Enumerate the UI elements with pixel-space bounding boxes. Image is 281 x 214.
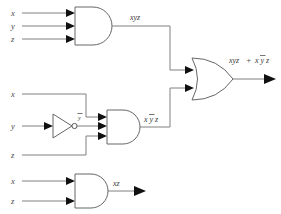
label-or-term2-x: x xyxy=(254,56,259,65)
label-bottom-and-output: xz xyxy=(112,179,121,188)
wire-mid-z xyxy=(22,136,98,155)
arrowhead-top-y xyxy=(66,22,75,30)
arrowhead-not-input xyxy=(44,122,53,130)
label-or-term1: xyz xyxy=(228,56,240,65)
not-gate xyxy=(53,114,72,138)
or-gate-output xyxy=(192,58,233,100)
label-or-plus: + xyxy=(246,56,251,65)
label-or-output: xyz + x y z xyxy=(228,56,270,66)
input-label-mid-z: z xyxy=(10,150,15,160)
input-label-mid-y: y xyxy=(10,121,15,131)
label-not-output: y xyxy=(77,114,83,122)
label-not-output-text: y xyxy=(77,114,81,121)
arrowhead-mid-and-2 xyxy=(98,122,107,130)
input-label-top-y: y xyxy=(10,21,15,31)
wire-top-and-output xyxy=(112,26,185,70)
arrowhead-or-input-2 xyxy=(185,84,194,92)
arrowhead-circuit-output xyxy=(264,74,276,84)
logic-circuit-diagram: x y z x y z x z xyz y x y z xyz + x y z … xyxy=(0,0,281,214)
label-mid-and-z: z xyxy=(154,115,159,124)
label-or-term2-z: z xyxy=(265,56,270,65)
arrowhead-bottom-z xyxy=(66,197,75,205)
not-gate-bubble xyxy=(72,123,77,128)
label-or-term2-y: y xyxy=(260,56,265,65)
arrowhead-or-input-1 xyxy=(185,66,194,74)
arrowhead-bottom-output xyxy=(134,186,146,196)
arrowhead-top-x xyxy=(66,9,75,17)
label-mid-and-output: x y z xyxy=(143,115,159,125)
input-label-bottom-z: z xyxy=(10,196,15,206)
input-label-top-x: x xyxy=(10,8,15,18)
arrowhead-bottom-x xyxy=(66,177,75,185)
input-label-mid-x: x xyxy=(10,89,15,99)
label-top-and-output: xyz xyxy=(129,13,141,22)
and-gate-bottom xyxy=(75,174,108,208)
and-gate-top xyxy=(75,7,112,45)
label-mid-and-x: x xyxy=(143,115,148,124)
arrowhead-mid-and-3 xyxy=(98,132,107,140)
input-label-top-z: z xyxy=(10,34,15,44)
label-mid-and-y: y xyxy=(149,115,154,124)
top-input-wires xyxy=(22,13,66,39)
arrowhead-mid-and-1 xyxy=(98,113,107,121)
top-input-arrowheads xyxy=(66,9,75,43)
arrowhead-top-z xyxy=(66,35,75,43)
input-label-bottom-x: x xyxy=(10,176,15,186)
and-gate-middle xyxy=(107,110,140,144)
wire-mid-x xyxy=(22,94,98,117)
